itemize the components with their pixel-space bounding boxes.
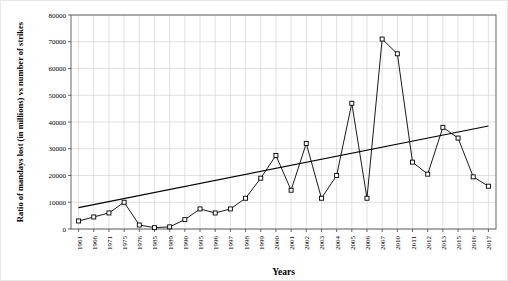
data-point-marker: [213, 211, 217, 215]
x-axis-tick-label: 2012: [425, 236, 433, 251]
x-axis-tick-label: 2017: [485, 236, 493, 251]
data-point-marker: [77, 219, 81, 223]
x-axis-tick-label: 2002: [303, 236, 311, 251]
y-axis-tick-label: 10000: [49, 199, 67, 207]
data-point-marker: [289, 188, 293, 192]
y-axis-tick-label: 70000: [49, 38, 67, 46]
data-point-marker: [259, 176, 263, 180]
data-point-marker: [456, 136, 460, 140]
data-point-marker: [274, 153, 278, 157]
data-point-marker: [137, 223, 141, 227]
data-point-marker: [426, 172, 430, 176]
x-axis-tick-label: 2015: [455, 236, 463, 251]
x-axis-tick-label: 2003: [318, 236, 326, 251]
data-point-marker: [122, 200, 126, 204]
y-axis-tick-label: 30000: [49, 145, 67, 153]
data-point-marker: [350, 101, 354, 105]
x-axis-tick-label: 1996: [212, 236, 220, 251]
data-point-marker: [395, 52, 399, 56]
y-axis-tick-label: 0: [63, 226, 67, 234]
y-axis-tick-label: 20000: [49, 172, 67, 180]
x-axis-tick-label: 2007: [379, 236, 387, 251]
x-axis-tick-label: 2005: [349, 236, 357, 251]
x-axis-tick-label: 2013: [440, 236, 448, 251]
x-axis-tick-label: 1999: [258, 236, 266, 251]
x-axis-tick-label: 1998: [243, 236, 251, 251]
y-axis-tick-label: 80000: [49, 12, 67, 20]
x-axis-tick-label: 2006: [364, 236, 372, 251]
x-axis-tick-label: 2016: [470, 236, 478, 251]
x-axis-tick-label: 1975: [121, 236, 129, 251]
x-axis-tick-label: 2001: [288, 236, 296, 251]
data-point-marker: [228, 207, 232, 211]
data-point-marker: [183, 218, 187, 222]
x-axis-tick-label: 1976: [136, 236, 144, 251]
data-point-marker: [411, 160, 415, 164]
data-point-marker: [152, 226, 156, 230]
data-point-marker: [92, 215, 96, 219]
y-axis-title: Ratio of mandays lost (in millions) vs n…: [15, 21, 25, 222]
x-axis-tick-label: 1966: [91, 236, 99, 251]
x-axis-tick-label: 1989: [167, 236, 175, 251]
data-point-marker: [244, 196, 248, 200]
data-point-marker: [486, 184, 490, 188]
data-point-marker: [168, 225, 172, 229]
x-axis-tick-label: 1997: [227, 236, 235, 251]
x-axis-tick-label: 1990: [182, 236, 190, 251]
data-point-marker: [365, 196, 369, 200]
chart-svg: 0100002000030000400005000060000700008000…: [1, 1, 508, 281]
data-point-marker: [198, 207, 202, 211]
x-axis-tick-label: 1985: [151, 236, 159, 251]
data-point-marker: [335, 174, 339, 178]
chart-canvas: 0100002000030000400005000060000700008000…: [1, 1, 508, 281]
y-axis-tick-label: 50000: [49, 92, 67, 100]
x-axis-tick-label: 1995: [197, 236, 205, 251]
data-point-marker: [304, 141, 308, 145]
chart-figure: 0100002000030000400005000060000700008000…: [0, 0, 508, 281]
data-point-marker: [441, 125, 445, 129]
x-axis-tick-label: 2000: [273, 236, 281, 251]
x-axis-tick-label: 2010: [394, 236, 402, 251]
y-axis-tick-label: 60000: [49, 65, 67, 73]
x-axis-title: Years: [272, 267, 295, 277]
x-axis-tick-label: 1971: [106, 236, 114, 251]
data-point-marker: [471, 175, 475, 179]
y-axis-tick-label: 40000: [49, 119, 67, 127]
x-axis-tick-label: 1961: [76, 236, 84, 251]
data-point-marker: [380, 37, 384, 41]
x-axis-tick-label: 2004: [334, 236, 342, 251]
data-point-marker: [107, 211, 111, 215]
data-point-marker: [319, 196, 323, 200]
x-axis-tick-label: 2011: [410, 236, 418, 250]
